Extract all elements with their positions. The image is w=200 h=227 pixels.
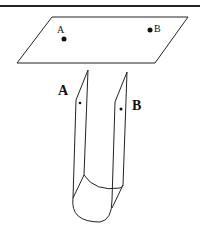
strip-label-b: B: [132, 98, 141, 113]
plane-label-b: B: [154, 23, 161, 34]
strip-point-a: [79, 102, 82, 105]
diagram-canvas: A B A B: [0, 0, 200, 227]
strip-label-a: A: [58, 83, 69, 98]
strip-point-b: [120, 108, 123, 111]
plane-point-b: [148, 28, 153, 33]
plane-label-a: A: [57, 24, 65, 35]
u-strip: [73, 70, 127, 222]
plane: [17, 17, 188, 63]
plane-point-a: [62, 37, 67, 42]
